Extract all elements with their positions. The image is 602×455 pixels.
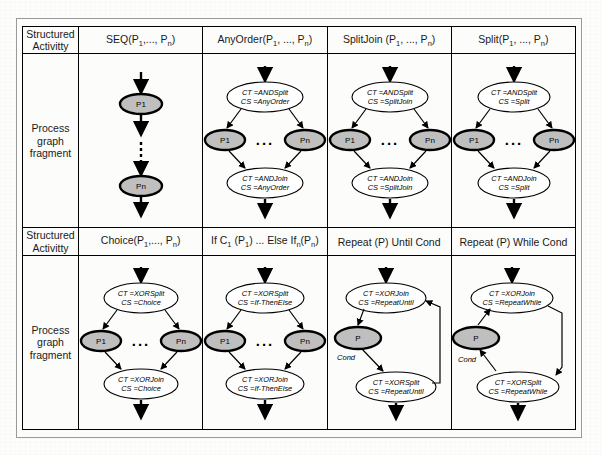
ellipsis-dots: ... bbox=[380, 131, 399, 148]
column-header-anyorder-mid: , ..., P bbox=[277, 33, 304, 45]
fragment-cell-repeatuntil: CT =XORJoin CS =RepeatUntil P Cond CT =X… bbox=[327, 255, 451, 429]
row-header-line2: Activitty bbox=[23, 40, 78, 53]
fragment-cell-seq: P1 Pn bbox=[79, 54, 203, 228]
cond-label: Cond bbox=[458, 355, 477, 364]
column-header-split-main: Split(P bbox=[478, 33, 509, 45]
ellipsis-dots: ... bbox=[256, 332, 275, 349]
gate-split-line2: CS =AnyOrder bbox=[241, 97, 290, 106]
gate-join-line2: CS =RepeatUntil bbox=[358, 298, 414, 307]
gate-split-line2: CS =Choice bbox=[121, 298, 161, 307]
row-header-line2-b: Activitty bbox=[23, 242, 78, 255]
column-header-choice-main: Choice(P bbox=[101, 234, 144, 246]
gate-split-line2: CS =RepeatUntil bbox=[368, 387, 424, 396]
table-row-fragments-2: Process graph fragment CT =XORSplit CS =… bbox=[23, 255, 576, 429]
gate-split-line1: CT =XORSplit bbox=[242, 289, 290, 298]
gate-join-line2: CS =SplitJoin bbox=[367, 183, 412, 192]
figure-page: Structured Activitty SEQ(P1,..., Pn) Any… bbox=[0, 0, 602, 455]
fragment-diagram-ifthenelse: CT =XORSplit CS =If-ThenElse P1 ... Pn C… bbox=[203, 259, 327, 425]
gate-join-line1: CT =ANDJoin bbox=[367, 174, 412, 183]
gate-split-line2: CS =Split bbox=[498, 97, 530, 106]
column-header-splitjoin-mid: , ..., P bbox=[400, 33, 427, 45]
column-header-seq: SEQ(P1,..., Pn) bbox=[79, 27, 203, 54]
gate-split-line1: CT =XORSplit bbox=[372, 378, 420, 387]
fragment-diagram-seq: P1 Pn bbox=[79, 58, 203, 224]
gate-join-line1: CT =XORJoin bbox=[363, 289, 409, 298]
node-pn-label: Pn bbox=[176, 337, 186, 346]
fragment-cell-choice: CT =XORSplit CS =Choice P1 ... Pn CT =XO… bbox=[79, 255, 203, 429]
frag-header-line1-b: Process bbox=[23, 324, 78, 337]
ellipsis-dots: ... bbox=[256, 131, 275, 148]
column-header-anyorder-end: ) bbox=[309, 33, 313, 45]
ellipsis-dots: ... bbox=[132, 332, 151, 349]
fragment-cell-split: CT =ANDSplit CS =Split P1 ... Pn CT =AND… bbox=[451, 54, 575, 228]
column-header-splitjoin-main: SplitJoin (P bbox=[343, 33, 396, 45]
cond-label: Cond bbox=[336, 353, 355, 362]
fragment-cell-splitjoin: CT =ANDSplit CS =SplitJoin P1 ... Pn CT … bbox=[327, 54, 451, 228]
column-header-seq-mid: ,..., P bbox=[143, 33, 168, 45]
node-p1-label: P1 bbox=[345, 136, 355, 145]
table-row-header-1: Structured Activitty SEQ(P1,..., Pn) Any… bbox=[23, 27, 576, 54]
row-header-line1-b: Structured bbox=[23, 229, 78, 242]
gate-join-line1: CT =ANDJoin bbox=[491, 174, 536, 183]
fragment-diagram-splitjoin: CT =ANDSplit CS =SplitJoin P1 ... Pn CT … bbox=[328, 58, 452, 224]
gate-join-line1: CT =XORJoin bbox=[489, 289, 535, 298]
row-header-process-graph-fragment-1: Process graph fragment bbox=[23, 54, 79, 228]
node-p-label: P bbox=[473, 334, 478, 343]
node-p-label: P bbox=[355, 334, 360, 343]
node-p1-label: P1 bbox=[220, 136, 230, 145]
gate-join-line1: CT =ANDJoin bbox=[243, 174, 288, 183]
fragment-diagram-anyorder: CT =ANDSplit CS =AnyOrder P1 ... Pn CT =… bbox=[203, 58, 327, 224]
row-header-line1: Structured bbox=[23, 28, 78, 41]
gate-split-line1: CT =XORSplit bbox=[494, 378, 542, 387]
gate-join-line2: CS =Split bbox=[498, 183, 530, 192]
fragment-cell-repeatwhile: CT =XORJoin CS =RepeatWhile P Cond CT =X… bbox=[451, 255, 575, 429]
gate-split-line1: CT =ANDSplit bbox=[366, 88, 413, 97]
column-header-split-end: ) bbox=[545, 33, 549, 45]
gate-join-line2: CS =If-ThenElse bbox=[238, 384, 292, 393]
node-p1-label: P1 bbox=[220, 337, 230, 346]
column-header-split-mid: , ..., P bbox=[513, 33, 540, 45]
column-header-split: Split(P1, ..., Pn) bbox=[451, 27, 575, 54]
fragment-cell-ifthenelse: CT =XORSplit CS =If-ThenElse P1 ... Pn C… bbox=[203, 255, 327, 429]
column-header-splitjoin-end: ) bbox=[432, 33, 436, 45]
column-header-choice-end: ) bbox=[177, 234, 181, 246]
gate-join-line1: CT =XORJoin bbox=[242, 375, 288, 384]
loopforward-edge bbox=[548, 306, 562, 375]
row-header-structured-activity-1: Structured Activitty bbox=[23, 27, 79, 54]
gate-split-line2: CS =SplitJoin bbox=[367, 97, 412, 106]
row-header-process-graph-fragment-2: Process graph fragment bbox=[23, 255, 79, 429]
fragment-diagram-split: CT =ANDSplit CS =Split P1 ... Pn CT =AND… bbox=[452, 58, 576, 224]
gate-split-line2: CS =RepeatWhile bbox=[488, 387, 547, 396]
column-header-choice-mid: ,..., P bbox=[148, 234, 173, 246]
gate-join-line1: CT =XORJoin bbox=[118, 375, 164, 384]
column-header-ifthenelse-main: If C bbox=[211, 234, 227, 246]
node-pn-label: Pn bbox=[549, 136, 559, 145]
fragment-diagram-repeatuntil: CT =XORJoin CS =RepeatUntil P Cond CT =X… bbox=[328, 259, 452, 425]
column-header-repeatwhile: Repeat (P) While Cond bbox=[451, 228, 575, 255]
fragment-diagram-choice: CT =XORSplit CS =Choice P1 ... Pn CT =XO… bbox=[79, 259, 203, 425]
table-row-fragments-1: Process graph fragment bbox=[23, 54, 576, 228]
frag-header-line2-b: graph bbox=[23, 336, 78, 349]
fragment-cell-anyorder: CT =ANDSplit CS =AnyOrder P1 ... Pn CT =… bbox=[203, 54, 327, 228]
table-row-header-2: Structured Activitty Choice(P1,..., Pn) … bbox=[23, 228, 576, 255]
column-header-seq-end: ) bbox=[172, 33, 176, 45]
column-header-repeatuntil-main: Repeat (P) Until Cond bbox=[338, 236, 441, 248]
column-header-repeatuntil: Repeat (P) Until Cond bbox=[327, 228, 451, 255]
column-header-ifthenelse-tail2: ) bbox=[315, 234, 319, 246]
node-p1-label: P1 bbox=[136, 100, 146, 109]
column-header-choice: Choice(P1,..., Pn) bbox=[79, 228, 203, 255]
node-pn-label: Pn bbox=[300, 337, 310, 346]
frag-header-line3: fragment bbox=[23, 147, 78, 160]
frag-header-line2: graph bbox=[23, 135, 78, 148]
gate-split-line2: CS =If-ThenElse bbox=[238, 298, 292, 307]
loopback-edge bbox=[426, 301, 440, 383]
column-header-ifthenelse-end: ) ... Else If bbox=[249, 234, 296, 246]
node-p1-label: P1 bbox=[469, 136, 479, 145]
structured-activity-matrix: Structured Activitty SEQ(P1,..., Pn) Any… bbox=[22, 26, 576, 430]
column-header-splitjoin: SplitJoin (P1, ..., Pn) bbox=[327, 27, 451, 54]
column-header-repeatwhile-main: Repeat (P) While Cond bbox=[459, 236, 567, 248]
node-pn-label: Pn bbox=[300, 136, 310, 145]
gate-join-line2: CS =RepeatWhile bbox=[482, 298, 541, 307]
column-header-seq-main: SEQ(P bbox=[106, 33, 139, 45]
row-header-structured-activity-2: Structured Activitty bbox=[23, 228, 79, 255]
